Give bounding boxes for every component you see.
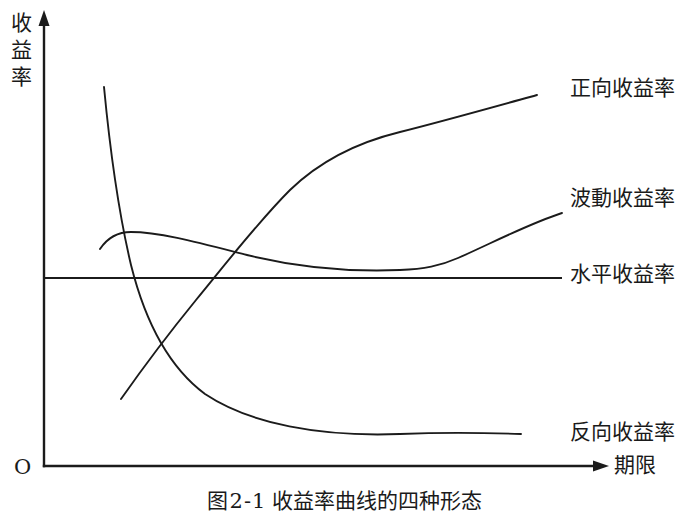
series-label-flat: 水平收益率 — [570, 262, 675, 286]
y-axis — [39, 10, 50, 466]
figure-caption: 图2-1收益率曲线的四种形态 — [0, 488, 689, 514]
y-axis-label-char-1: 收 — [4, 10, 38, 37]
series-label-inverted: 反向收益率 — [570, 420, 675, 444]
x-axis-label: 期限 — [614, 452, 656, 478]
y-axis-label-char-3: 率 — [4, 64, 38, 91]
caption-prefix: 图 — [207, 489, 228, 513]
series-label-upward: 正向收益率 — [570, 76, 675, 100]
series-line-inverted — [104, 87, 521, 434]
x-axis — [44, 461, 609, 472]
series-line-upward — [121, 95, 537, 399]
y-axis-arrow-icon — [39, 10, 50, 26]
y-axis-label-char-2: 益 — [4, 37, 38, 64]
x-axis-arrow-icon — [593, 461, 609, 472]
caption-number: 2-1 — [230, 489, 267, 513]
series-line-wave — [100, 213, 562, 270]
series-label-wave: 波動收益率 — [570, 186, 675, 210]
origin-label: O — [14, 455, 31, 479]
caption-text: 收益率曲线的四种形态 — [272, 489, 482, 513]
y-axis-label: 收 益 率 — [4, 10, 38, 91]
